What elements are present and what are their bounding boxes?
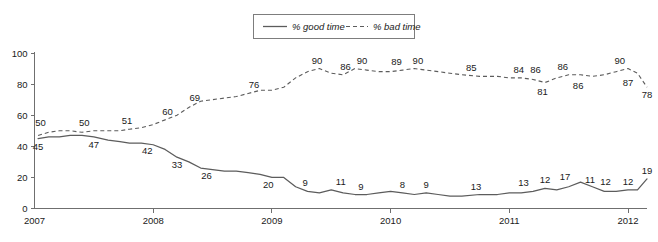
- data-point-label: 84: [514, 64, 525, 75]
- data-point-label: 89: [391, 56, 402, 67]
- data-point-label: 8: [400, 179, 405, 190]
- data-point-label: 19: [642, 165, 653, 176]
- data-point-label: 9: [302, 177, 307, 188]
- x-axis-tick-label: 2008: [143, 215, 164, 226]
- data-point-label: 90: [357, 55, 368, 66]
- data-point-label: 13: [471, 181, 482, 192]
- y-axis-tick-label: 0: [22, 203, 27, 214]
- data-labels-layer: 4547423326209119891313121711121219505051…: [33, 55, 653, 192]
- x-axis: 200720082009201020112012: [24, 209, 647, 226]
- data-point-label: 86: [340, 61, 351, 72]
- y-axis-tick-label: 20: [17, 172, 28, 183]
- x-axis-tick-label: 2012: [617, 215, 638, 226]
- data-point-label: 78: [642, 89, 653, 100]
- data-point-label: 90: [312, 55, 323, 66]
- data-point-label: 33: [172, 159, 183, 170]
- data-point-label: 85: [466, 62, 477, 73]
- data-point-label: 47: [89, 139, 100, 150]
- data-point-label: 11: [585, 174, 595, 185]
- legend: % good time % bad time: [254, 15, 421, 39]
- legend-label-bad-time: % bad time: [373, 21, 421, 32]
- y-axis-tick-label: 60: [17, 110, 28, 121]
- data-point-label: 51: [122, 115, 133, 126]
- y-axis: 020406080100: [12, 48, 35, 215]
- x-axis-tick-label: 2011: [499, 215, 519, 226]
- data-point-label: 90: [614, 55, 625, 66]
- y-axis-tick-label: 80: [17, 79, 28, 90]
- data-point-label: 81: [537, 86, 548, 97]
- chart-canvas: % good time % bad time 020406080100 2007…: [0, 0, 658, 242]
- data-point-label: 50: [79, 117, 90, 128]
- data-point-label: 26: [201, 170, 212, 181]
- data-point-label: 87: [623, 77, 634, 88]
- data-point-label: 86: [573, 80, 584, 91]
- data-point-label: 13: [518, 177, 529, 188]
- x-axis-tick-label: 2010: [380, 215, 401, 226]
- y-axis-tick-label: 40: [17, 141, 28, 152]
- data-point-label: 45: [33, 141, 44, 152]
- data-point-label: 20: [263, 179, 274, 190]
- data-point-label: 42: [142, 145, 153, 156]
- data-point-label: 50: [35, 117, 46, 128]
- legend-label-good-time: % good time: [292, 21, 345, 32]
- data-point-label: 17: [560, 171, 571, 182]
- data-point-label: 86: [530, 64, 541, 75]
- data-point-label: 86: [557, 61, 568, 72]
- data-point-label: 9: [358, 181, 363, 192]
- data-point-label: 76: [249, 79, 260, 90]
- data-point-label: 12: [540, 174, 551, 185]
- x-axis-tick-label: 2007: [24, 215, 45, 226]
- data-point-label: 90: [413, 55, 424, 66]
- data-point-label: 69: [189, 92, 200, 103]
- data-point-label: 12: [600, 176, 611, 187]
- line-chart: % good time % bad time 020406080100 2007…: [0, 0, 658, 242]
- y-axis-tick-label: 100: [12, 48, 28, 59]
- data-point-label: 11: [336, 176, 346, 187]
- series-line-good-time: [38, 135, 647, 196]
- data-point-label: 60: [162, 106, 173, 117]
- data-point-label: 9: [424, 179, 429, 190]
- x-axis-tick-label: 2009: [261, 215, 282, 226]
- data-point-label: 12: [623, 176, 634, 187]
